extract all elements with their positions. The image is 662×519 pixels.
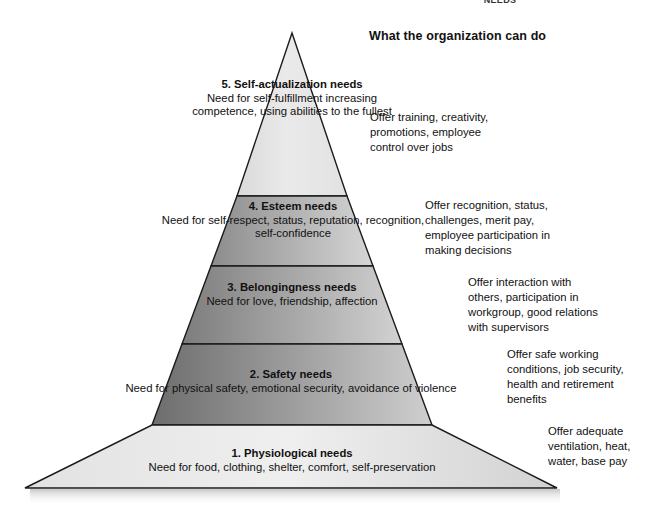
tier-4-label: 4. Esteem needs Need for self-respect, s… (150, 200, 436, 241)
tier-1-label: 1. Physiological needs Need for food, cl… (40, 447, 544, 474)
pyramid-base-shadow (30, 489, 560, 505)
diagram-canvas: NEEDS What the organization can do (0, 0, 662, 519)
tier-3-description: Need for love, friendship, affection (120, 295, 464, 309)
tier-3-title: 3. Belongingness needs (120, 281, 464, 295)
tier-4-description: Need for self-respect, status, reputatio… (150, 214, 436, 241)
annotation-tier-1: Offer adequate ventilation, heat, water,… (548, 424, 660, 469)
tier-1-title: 1. Physiological needs (40, 447, 544, 461)
tier-2-title: 2. Safety needs (70, 368, 512, 382)
annotation-tier-3: Offer interaction with others, participa… (468, 275, 608, 335)
tier-1-description: Need for food, clothing, shelter, comfor… (40, 461, 544, 475)
tier-5-title: 5. Self-actualization needs (176, 78, 408, 92)
annotation-tier-5: Offer training, creativity, promotions, … (370, 110, 500, 155)
tier-3-label: 3. Belongingness needs Need for love, fr… (120, 281, 464, 308)
annotation-tier-2: Offer safe working conditions, job secur… (507, 347, 639, 407)
annotation-tier-4: Offer recognition, status, challenges, m… (425, 198, 557, 258)
tier-2-label: 2. Safety needs Need for physical safety… (70, 368, 512, 395)
tier-2-description: Need for physical safety, emotional secu… (70, 382, 512, 396)
tier-4-title: 4. Esteem needs (150, 200, 436, 214)
